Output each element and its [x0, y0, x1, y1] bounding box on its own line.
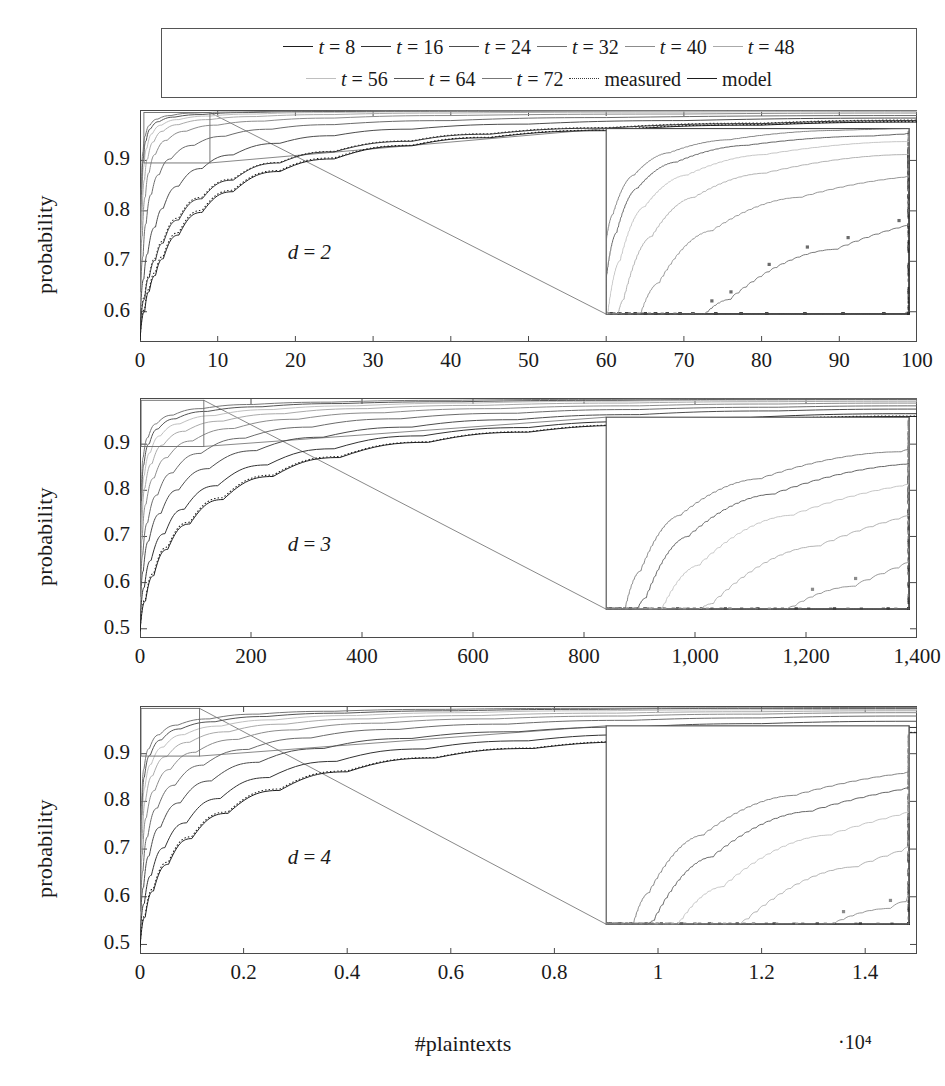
x-tick-label: 0	[100, 960, 180, 985]
y-tick-label: 0.6	[74, 569, 130, 594]
x-tick-label: 90	[799, 348, 879, 373]
y-tick-label: 0.6	[74, 883, 130, 908]
y-axis-title: probability	[32, 799, 58, 898]
x-tick-label: 50	[489, 348, 569, 373]
legend-line-sample	[713, 41, 743, 53]
x-tick-label: 1.4	[825, 960, 905, 985]
legend-row-1: t = 8t = 16t = 24t = 32t = 40t = 48	[162, 31, 916, 63]
plot-panel-d3	[140, 398, 917, 638]
legend-entry: t = 64	[394, 68, 476, 91]
x-tick-label: 0.2	[204, 960, 284, 985]
legend-row-2: t = 56t = 64t = 72measuredmodel	[162, 63, 916, 95]
x-tick-label: 200	[211, 644, 291, 669]
legend-entry: t = 56	[306, 68, 388, 91]
x-tick-label: 600	[433, 644, 513, 669]
plot-panel-d2	[140, 110, 917, 342]
legend-line-sample	[625, 41, 655, 53]
legend-entry: t = 72	[482, 68, 564, 91]
x-axis-title: #plaintexts	[0, 1031, 926, 1057]
y-tick-label: 0.7	[74, 247, 130, 272]
x-tick-label: 1,400	[877, 644, 945, 669]
x-tick-label: 70	[644, 348, 724, 373]
x-axis-multiplier: ·10⁴	[838, 1031, 872, 1054]
legend-line-sample	[394, 73, 424, 85]
x-tick-label: 1,000	[655, 644, 735, 669]
x-tick-label: 1,200	[766, 644, 846, 669]
y-tick-label: 0.9	[74, 146, 130, 171]
x-tick-label: 0.4	[307, 960, 387, 985]
legend-label: t = 40	[660, 36, 707, 59]
panel-annotation: d = 2	[288, 240, 331, 265]
legend-label: t = 72	[517, 68, 564, 91]
y-tick-label: 0.8	[74, 197, 130, 222]
legend-line-sample	[537, 41, 567, 53]
x-tick-label: 0	[100, 348, 180, 373]
x-tick-label: 30	[333, 348, 413, 373]
panel-annotation: d = 3	[288, 532, 331, 557]
legend-entry: t = 32	[537, 36, 619, 59]
y-axis-title: probability	[32, 487, 58, 586]
plot-canvas-d2	[140, 110, 917, 342]
legend-entry: model	[687, 68, 772, 91]
x-tick-label: 20	[255, 348, 335, 373]
x-tick-label: 800	[544, 644, 624, 669]
x-tick-label: 10	[178, 348, 258, 373]
panel-annotation: d = 4	[288, 845, 331, 870]
x-tick-label: 80	[722, 348, 802, 373]
legend-line-sample	[361, 41, 391, 53]
legend: t = 8t = 16t = 24t = 32t = 40t = 48 t = …	[161, 28, 917, 98]
x-tick-label: 0.8	[514, 960, 594, 985]
legend-entry: t = 24	[449, 36, 531, 59]
y-tick-label: 0.8	[74, 476, 130, 501]
legend-line-sample	[569, 73, 599, 85]
legend-label: model	[722, 68, 772, 91]
plot-canvas-d4	[140, 706, 917, 954]
legend-line-sample	[306, 73, 336, 85]
y-tick-label: 0.9	[74, 740, 130, 765]
y-tick-label: 0.8	[74, 787, 130, 812]
legend-entry: t = 8	[283, 36, 355, 59]
legend-label: measured	[604, 68, 681, 91]
x-tick-label: 1.2	[722, 960, 802, 985]
plot-panel-d4	[140, 706, 917, 954]
y-tick-label: 0.6	[74, 298, 130, 323]
legend-line-sample	[449, 41, 479, 53]
legend-label: t = 64	[429, 68, 476, 91]
y-tick-label: 0.9	[74, 430, 130, 455]
x-tick-label: 0.6	[411, 960, 491, 985]
legend-entry: t = 48	[713, 36, 795, 59]
legend-entry: t = 16	[361, 36, 443, 59]
y-tick-label: 0.7	[74, 522, 130, 547]
legend-entry: t = 40	[625, 36, 707, 59]
x-tick-label: 0	[100, 644, 180, 669]
legend-label: t = 24	[484, 36, 531, 59]
y-axis-title: probability	[32, 195, 58, 294]
y-tick-label: 0.5	[74, 615, 130, 640]
legend-entry: measured	[569, 68, 681, 91]
legend-label: t = 56	[341, 68, 388, 91]
x-tick-label: 60	[566, 348, 646, 373]
legend-line-sample	[687, 73, 717, 85]
x-tick-label: 100	[877, 348, 945, 373]
y-tick-label: 0.5	[74, 930, 130, 955]
legend-label: t = 8	[318, 36, 355, 59]
x-tick-label: 400	[322, 644, 402, 669]
x-tick-label: 40	[411, 348, 491, 373]
legend-line-sample	[283, 41, 313, 53]
y-tick-label: 0.7	[74, 835, 130, 860]
legend-label: t = 48	[748, 36, 795, 59]
plot-canvas-d3	[140, 398, 917, 638]
x-tick-label: 1	[618, 960, 698, 985]
legend-label: t = 16	[396, 36, 443, 59]
legend-line-sample	[482, 73, 512, 85]
legend-label: t = 32	[572, 36, 619, 59]
